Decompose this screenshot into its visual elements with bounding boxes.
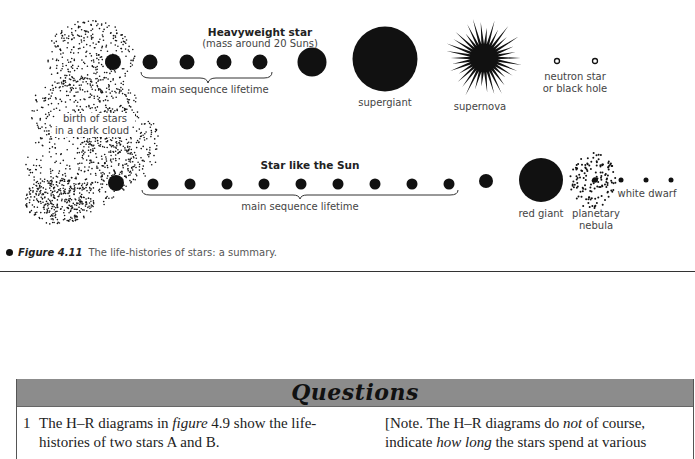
- q1-text-line2: histories of two stars A and B.: [23, 433, 343, 452]
- heavyweight-title: Heavyweight star: [200, 26, 320, 38]
- supernova-label: supernova: [445, 101, 515, 113]
- note-text-1a: [Note. The H–R diagrams do: [385, 415, 559, 431]
- nebula-core: [592, 177, 598, 183]
- caption-text: The life-histories of stars: a summary.: [88, 247, 277, 258]
- q1-figure-ref: figure: [172, 415, 207, 431]
- figure-number: Figure 4.11: [18, 247, 82, 258]
- bullet-icon: [6, 249, 13, 256]
- figure-caption: Figure 4.11The life-histories of stars: …: [6, 247, 277, 258]
- question-note: [Note. The H–R diagrams do not of course…: [385, 414, 685, 452]
- nebula-label-line1: planetary: [566, 208, 626, 220]
- neutron-star-graphic: [555, 59, 560, 64]
- questions-box: Questions 1The H–R diagrams in figure 4.…: [16, 379, 694, 459]
- supergiant-graphic: [353, 27, 418, 92]
- cloud-label-line2: in a dark cloud: [52, 125, 132, 137]
- heavyweight-main-sequence-dots: [143, 48, 327, 77]
- remnant-label-line1: neutron star: [540, 71, 610, 83]
- supernova-graphic: [446, 19, 521, 95]
- cloud-label-line1: birth of stars: [55, 113, 135, 125]
- heavyweight-main-sequence-label: main sequence lifetime: [150, 84, 270, 96]
- note-emphasis-2: how long: [436, 434, 491, 450]
- note-text-1b: of course,: [586, 415, 645, 431]
- black-hole-graphic: [593, 59, 598, 64]
- sunlike-brace: [142, 190, 458, 199]
- question-number: 1: [23, 414, 39, 433]
- star-life-history-diagram: Heavyweight star (mass around 20 Suns) m…: [0, 0, 695, 240]
- red-giant-graphic: [519, 158, 563, 202]
- questions-heading: Questions: [291, 379, 419, 405]
- nebula-label-line2: nebula: [566, 220, 626, 232]
- heavyweight-brace: [141, 72, 272, 83]
- note-text-2b: the stars spend at various: [495, 434, 646, 450]
- white-dwarf-dots: [619, 178, 674, 183]
- sunlike-title: Star like the Sun: [250, 159, 370, 171]
- question-1: 1The H–R diagrams in figure 4.9 show the…: [23, 414, 343, 452]
- questions-header: Questions: [17, 379, 693, 407]
- heavyweight-subtitle: (mass around 20 Suns): [185, 38, 335, 50]
- red-giant-label: red giant: [511, 208, 571, 220]
- q1-text-end: 4.9 show the life-: [211, 415, 316, 431]
- note-text-2a: indicate: [385, 434, 432, 450]
- white-dwarf-label: white dwarf: [617, 188, 677, 200]
- section-divider: [0, 271, 695, 272]
- q1-text-start: The H–R diagrams in: [39, 415, 169, 431]
- sunlike-main-sequence-dots: [148, 174, 494, 190]
- sunlike-main-sequence-label: main sequence lifetime: [240, 201, 360, 213]
- note-emphasis-1: not: [563, 415, 582, 431]
- remnant-label-line2: or black hole: [540, 83, 610, 95]
- supergiant-label: supergiant: [350, 97, 420, 109]
